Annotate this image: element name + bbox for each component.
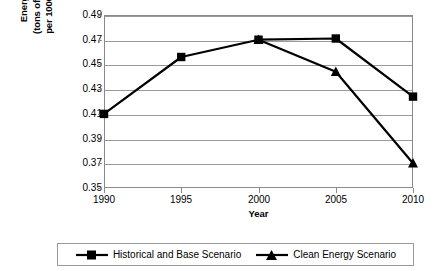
x-axis-tick-label: 2000: [237, 194, 281, 206]
y-axis-tick-mark: [98, 64, 102, 65]
x-axis-tick-label: 1990: [82, 194, 126, 206]
data-point-square-marker: [100, 110, 108, 118]
y-axis-tick-label: 0.37: [68, 158, 102, 168]
energy-intensity-line-chart: Energy Intensity (tons of oil equivalent…: [0, 0, 435, 271]
legend-item-clean-energy-scenario[interactable]: Clean Energy Scenario: [255, 249, 396, 261]
y-axis-tick-mark: [98, 188, 102, 189]
y-axis-tick-mark: [98, 40, 102, 41]
x-axis-tick-mark: [181, 188, 182, 193]
y-axis-tick-label: 0.45: [68, 59, 102, 69]
triangle-marker-icon: [255, 249, 289, 261]
y-axis-title-line-1: Energy Intensity: [18, 0, 31, 22]
series-line: [259, 40, 414, 164]
y-axis-tick-mark: [98, 15, 102, 16]
x-axis-tick-label: 2005: [314, 194, 358, 206]
square-marker-icon: [75, 249, 109, 261]
y-axis-tick-label: 0.49: [68, 10, 102, 20]
x-axis-tick-mark: [336, 188, 337, 193]
y-axis-tick-mark: [98, 163, 102, 164]
y-axis-title-line-3: per 1000 US$ of GDP): [43, 0, 56, 34]
chart-legend: Historical and Base Scenario Clean Energ…: [57, 243, 414, 266]
x-axis-tick-label: 1995: [159, 194, 203, 206]
data-series-layer: [104, 15, 413, 188]
legend-label: Clean Energy Scenario: [293, 249, 396, 261]
y-axis-tick-mark: [98, 139, 102, 140]
data-point-square-marker: [332, 34, 340, 42]
x-axis-ticks: 19901995200020052010: [104, 188, 413, 210]
y-axis-tick-label: 0.39: [68, 134, 102, 144]
y-axis-tick-label: 0.43: [68, 84, 102, 94]
legend-label: Historical and Base Scenario: [113, 249, 241, 261]
legend-item-historical-and-base-scenario[interactable]: Historical and Base Scenario: [75, 249, 241, 261]
x-axis-tick-mark: [259, 188, 260, 193]
x-axis-tick-mark: [413, 188, 414, 193]
x-axis-tick-label: 2010: [391, 194, 435, 206]
y-axis-ticks: 0.490.470.450.430.410.390.370.35: [62, 15, 102, 188]
x-axis-tick-mark: [104, 188, 105, 193]
y-axis-tick-mark: [98, 89, 102, 90]
x-axis-title: Year: [104, 208, 413, 219]
y-axis-title: Energy Intensity (tons of oil equivalent…: [8, 0, 66, 72]
y-axis-tick-label: 0.35: [68, 183, 102, 193]
y-axis-title-line-2: (tons of oil equivalent: [31, 0, 44, 34]
y-axis-tick-label: 0.47: [68, 35, 102, 45]
data-point-square-marker: [409, 92, 417, 100]
series-line: [104, 39, 413, 114]
y-axis-tick-label: 0.41: [68, 109, 102, 119]
data-point-square-marker: [177, 53, 185, 61]
